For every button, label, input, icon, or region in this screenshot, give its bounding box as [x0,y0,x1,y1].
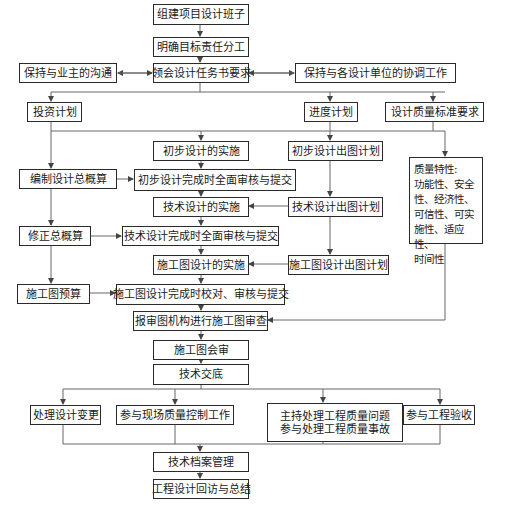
node-technical-review: 技术设计完成时全面审核与提交 [122,226,279,246]
node-quality-issues: 主持处理工程质量问题 参与处理工程质量事故 [267,403,403,442]
node-label: 保持与各设计单位的协调工作 [304,67,447,80]
node-label: 参与工程验收 [406,409,472,422]
node-label: 编制设计总概算 [30,173,107,186]
node-quality-standard: 设计质量标准要求 [385,102,484,122]
node-label: 明确目标责任分工 [157,41,245,54]
node-label: 报审图机构进行施工图审查 [135,315,267,328]
node-label: 参与现场质量控制工作 [120,409,230,422]
node-followup-summary: 工程设计回访与总结 [153,479,249,499]
node-technical-drawing-plan: 技术设计出图计划 [288,197,383,217]
node-form-team: 组建项目设计班子 [153,4,249,25]
node-label: 技术设计出图计划 [292,201,380,214]
quality-traits-line: 施性、适应性、 [414,222,478,252]
node-label: 技术交底 [179,368,223,381]
node-owner-communication: 保持与业主的沟通 [19,63,117,83]
node-investment-plan: 投资计划 [27,102,82,122]
node-label: 设计质量标准要求 [391,106,479,119]
quality-traits-line: 时间性 [414,252,444,267]
quality-traits-line: 性、经济性、 [414,192,474,207]
node-site-quality-control: 参与现场质量控制工作 [116,405,234,425]
node-unit-coordination: 保持与各设计单位的协调工作 [295,63,456,83]
node-label: 初步设计的实施 [163,145,240,158]
node-label: 组建项目设计班子 [157,8,245,21]
node-label: 施工图设计完成时校对、审核与提交 [113,288,289,301]
node-label: 初步设计完成时全面审核与提交 [138,174,292,187]
node-construction-budget: 施工图预算 [17,284,90,304]
quality-traits-line: 可信性、可实 [414,207,474,222]
node-technical-implementation: 技术设计的实施 [153,197,249,217]
node-label-line1: 主持处理工程质量问题 [280,410,390,423]
node-label: 施工图设计的实施 [157,259,245,272]
quality-traits-title: 质量特性: [414,162,458,177]
node-label: 技术设计的实施 [163,201,240,214]
node-preliminary-implementation: 初步设计的实施 [153,141,249,161]
node-label: 初步设计出图计划 [292,145,380,158]
node-label: 修正总概算 [28,230,83,243]
node-label: 保持与业主的沟通 [24,67,112,80]
node-budget-estimate: 编制设计总概算 [19,169,117,189]
node-preliminary-review: 初步设计完成时全面审核与提交 [134,169,296,191]
node-understand-brief: 领会设计任务书要求 [153,63,249,83]
node-label: 领会设计任务书要求 [152,67,251,80]
node-label: 处理设计变更 [33,409,99,422]
node-label: 施工图会审 [174,344,229,357]
node-quality-traits: 质量特性: 功能性、安全 性、经济性、 可信性、可实 施性、适应性、 时间性 [409,157,483,244]
node-clarify-goals: 明确目标责任分工 [153,37,249,57]
node-joint-review: 施工图会审 [153,340,249,360]
node-label: 技术档案管理 [168,456,234,469]
node-project-acceptance: 参与工程验收 [403,405,475,425]
node-archive-management: 技术档案管理 [153,452,249,472]
node-construction-drawing-implementation: 施工图设计的实施 [153,255,249,275]
quality-traits-line: 功能性、安全 [414,177,474,192]
node-revise-estimate: 修正总概算 [19,226,91,246]
node-authority-review: 报审图机构进行施工图审查 [133,311,268,331]
node-label: 进度计划 [309,106,353,119]
node-label: 工程设计回访与总结 [152,483,251,496]
node-schedule-plan: 进度计划 [304,102,358,122]
node-label: 施工图预算 [26,288,81,301]
node-handle-design-changes: 处理设计变更 [30,405,101,425]
node-construction-drawing-review: 施工图设计完成时校对、审核与提交 [116,284,285,305]
node-label: 技术设计完成时全面审核与提交 [124,230,278,243]
node-construction-drawing-plan: 施工图设计出图计划 [288,255,389,275]
node-label-line2: 参与处理工程质量事故 [280,423,390,436]
node-preliminary-drawing-plan: 初步设计出图计划 [288,141,383,161]
node-label: 投资计划 [33,106,77,119]
node-technical-briefing: 技术交底 [153,364,249,385]
node-label: 施工图设计出图计划 [289,259,388,272]
